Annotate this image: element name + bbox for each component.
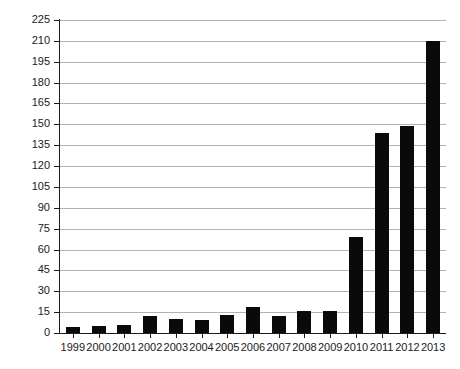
y-tick-label: 45 (0, 264, 50, 275)
y-tick-label: 60 (0, 244, 50, 255)
x-tick-label-2013: 2013 (420, 341, 446, 353)
y-tick-label: 135 (0, 139, 50, 150)
y-tick-label: 120 (0, 160, 50, 171)
bar-2004 (195, 320, 209, 333)
x-tick-label-2003: 2003 (163, 341, 189, 353)
x-tick-label-2007: 2007 (266, 341, 292, 353)
gridline (60, 62, 446, 63)
x-tick-mark (304, 334, 305, 338)
x-tick-label-2009: 2009 (317, 341, 343, 353)
y-tick-label: 150 (0, 118, 50, 129)
x-tick-label-2006: 2006 (240, 341, 266, 353)
bar-2013 (426, 41, 440, 333)
x-tick-label-2001: 2001 (111, 341, 137, 353)
bar-2010 (349, 237, 363, 333)
y-tick-label: 15 (0, 306, 50, 317)
y-tick-label: 30 (0, 285, 50, 296)
bar-2001 (117, 325, 131, 333)
x-tick-label-2012: 2012 (395, 341, 421, 353)
bar-chart: 0153045607590105120135150165180195210225… (0, 0, 460, 369)
gridline (60, 103, 446, 104)
x-tick-label-2011: 2011 (369, 341, 395, 353)
x-tick-mark (176, 334, 177, 338)
x-tick-mark (99, 334, 100, 338)
bar-2012 (400, 126, 414, 333)
x-tick-mark (407, 334, 408, 338)
gridline (60, 41, 446, 42)
y-tick-label: 195 (0, 56, 50, 67)
x-tick-label-2010: 2010 (343, 341, 369, 353)
x-tick-mark (330, 334, 331, 338)
y-tick-label: 105 (0, 181, 50, 192)
y-tick-label: 165 (0, 97, 50, 108)
bar-2000 (92, 326, 106, 333)
y-tick-label: 75 (0, 223, 50, 234)
bar-2005 (220, 315, 234, 333)
y-tick-label: 210 (0, 35, 50, 46)
x-tick-mark (279, 334, 280, 338)
x-tick-label-2004: 2004 (189, 341, 215, 353)
x-tick-label-1999: 1999 (60, 341, 86, 353)
bar-2011 (375, 133, 389, 333)
bar-1999 (66, 327, 80, 333)
y-tick-label: 0 (0, 327, 50, 338)
bar-2006 (246, 307, 260, 333)
x-tick-label-2005: 2005 (214, 341, 240, 353)
x-tick-mark (227, 334, 228, 338)
y-tick-label: 90 (0, 202, 50, 213)
gridline (60, 124, 446, 125)
x-tick-mark (356, 334, 357, 338)
bar-2002 (143, 316, 157, 333)
plot-area (60, 20, 446, 333)
x-tick-mark (73, 334, 74, 338)
x-tick-mark (253, 334, 254, 338)
y-tick-label: 225 (0, 14, 50, 25)
x-tick-mark (433, 334, 434, 338)
x-axis: 1999200020012002200320042005200620072008… (60, 334, 446, 364)
y-tick-label: 180 (0, 77, 50, 88)
x-tick-mark (202, 334, 203, 338)
x-tick-mark (124, 334, 125, 338)
x-tick-label-2008: 2008 (292, 341, 318, 353)
bar-2007 (272, 316, 286, 333)
bar-2003 (169, 319, 183, 333)
x-tick-label-2000: 2000 (86, 341, 112, 353)
x-tick-mark (150, 334, 151, 338)
x-tick-mark (382, 334, 383, 338)
x-tick-label-2002: 2002 (137, 341, 163, 353)
gridline (60, 83, 446, 84)
bar-2009 (323, 311, 337, 333)
bar-2008 (297, 311, 311, 333)
gridline (60, 20, 446, 21)
